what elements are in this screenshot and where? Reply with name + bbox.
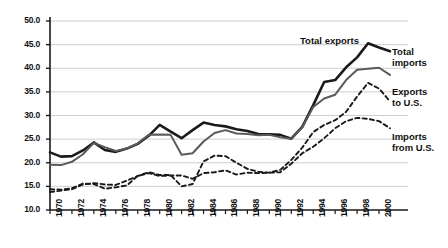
x-axis-tick-label: 1992 (295, 199, 305, 217)
x-axis-tick-label: 1998 (361, 199, 371, 217)
y-axis-tick-label: 15.0 (6, 180, 40, 190)
y-axis-tick-label: 30.0 (6, 110, 40, 120)
y-axis-tick-label: 50.0 (6, 15, 40, 25)
line-chart: 10.015.020.025.030.035.040.045.050.01970… (0, 0, 448, 248)
x-axis-tick-label: 1984 (208, 199, 218, 217)
annotation-total-imports-line2: imports (392, 57, 427, 68)
y-axis-tick-label: 40.0 (6, 62, 40, 72)
y-axis-tick-label: 35.0 (6, 86, 40, 96)
x-axis-tick-label: 1970 (54, 199, 64, 217)
series-line-total-exports (50, 43, 390, 156)
annotation-exports-us-line1: Exports (392, 86, 427, 97)
x-axis-tick-label: 1976 (120, 199, 130, 217)
x-axis-tick-label: 1994 (317, 199, 327, 217)
y-axis-tick-label: 45.0 (6, 39, 40, 49)
x-axis-tick-label: 1990 (273, 199, 283, 217)
series-line-exports-to-u-s (50, 83, 390, 192)
x-axis-tick-label: 1982 (186, 199, 196, 217)
x-axis-tick-label: 1980 (164, 199, 174, 217)
annotation-total-imports-line1: Total (392, 46, 414, 57)
x-axis-tick-label: 1996 (339, 199, 349, 217)
x-axis-tick-label: 2000 (383, 199, 393, 217)
x-axis-tick-label: 1972 (76, 199, 86, 217)
annotation-exports-us-line2: to U.S. (392, 97, 422, 108)
y-axis-tick-label: 10.0 (6, 204, 40, 214)
y-axis-tick-label: 25.0 (6, 133, 40, 143)
x-axis-tick-label: 1978 (142, 199, 152, 217)
annotation-imports-us-line2: from U.S. (392, 142, 434, 153)
annotation-imports-us-line1: Imports (392, 131, 427, 142)
x-axis-tick-label: 1988 (251, 199, 261, 217)
series-line-imports-from-u-s (50, 118, 390, 190)
x-axis-tick-label: 1974 (98, 199, 108, 217)
y-axis-tick-label: 20.0 (6, 157, 40, 167)
plot-area (0, 0, 448, 248)
annotation-total-exports: Total exports (300, 35, 359, 46)
x-axis-tick-label: 1986 (229, 199, 239, 217)
